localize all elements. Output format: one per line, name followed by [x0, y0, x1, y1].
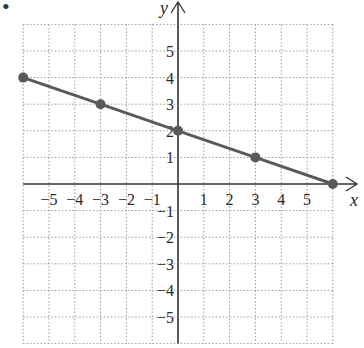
y-tick-label: 1 [166, 149, 174, 166]
x-tick-label: 4 [277, 191, 285, 208]
data-point [18, 73, 28, 83]
y-tick-label: 2 [166, 123, 174, 140]
y-tick-label: 4 [166, 70, 174, 87]
data-point [250, 152, 260, 162]
x-tick-label: 5 [303, 191, 311, 208]
x-axis-label: x [349, 190, 358, 210]
data-point [96, 99, 106, 109]
data-point [173, 126, 183, 136]
y-tick-label: −2 [157, 229, 174, 246]
y-tick-label: −1 [157, 203, 174, 220]
x-tick-label: −5 [40, 191, 57, 208]
x-tick-label: 3 [251, 191, 259, 208]
y-tick-label: −4 [157, 282, 174, 299]
data-point [328, 179, 338, 189]
y-tick-label: −3 [157, 256, 174, 273]
x-tick-label: −3 [92, 191, 109, 208]
x-tick-label: 1 [200, 191, 208, 208]
coordinate-plane-chart: xy−5−4−3−2−11234554321−1−2−3−4−5 [0, 0, 364, 348]
x-tick-label: −4 [66, 191, 83, 208]
y-tick-label: −5 [157, 309, 174, 326]
x-tick-label: −2 [118, 191, 135, 208]
y-axis-label: y [158, 0, 168, 18]
y-tick-label: 3 [166, 96, 174, 113]
y-tick-label: 5 [166, 43, 174, 60]
x-tick-label: 2 [226, 191, 234, 208]
